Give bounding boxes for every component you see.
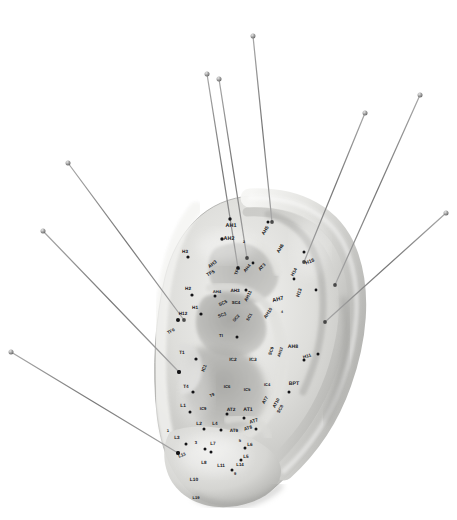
acupoint-dot [199,312,202,315]
needle-5-insertion-point [333,283,337,287]
acupoint-dot [220,429,223,432]
acupoint-dot [189,411,192,414]
ear-acupuncture-photo: AH1AH22AH5AH6H15H14AH3H3H2H1AH4AT3AH4AH3… [0,0,457,520]
acupoint-dot [220,237,223,240]
acupoint-dot [186,255,189,258]
needle-6-handle[interactable] [444,211,449,216]
acupoint-dot [191,390,194,393]
needle-7-handle[interactable] [66,161,71,166]
acupoint-dot [243,417,246,420]
needle-2-handle[interactable] [217,77,222,82]
acupoint-dot [252,262,255,265]
sheen-lobe [180,436,248,476]
ear-model-body [155,196,361,507]
needle-7-insertion-point [182,318,186,322]
acupoint-dot [194,357,197,360]
acupoint-dot [303,359,306,362]
needle-4-insertion-point [302,260,306,264]
acupoint-dot [245,289,248,292]
acupoint-dot [240,459,243,462]
acupoint-dot [315,289,318,292]
acupoint-dot [185,443,188,446]
needle-7-shaft [68,163,184,320]
needle-7[interactable] [66,161,186,322]
needle-9-handle[interactable] [9,350,14,355]
acupoint-dot [236,336,239,339]
acupoint-dot [177,370,181,374]
acupoint-dot [244,447,247,450]
sheen-tragus [180,362,212,422]
acupoint-dot [176,318,180,322]
needle-4-handle[interactable] [363,111,368,116]
needle-8-handle[interactable] [41,229,46,234]
acupoint-dot [210,451,213,454]
acupoint-dot [255,428,258,431]
acupoint-dot [267,221,270,224]
needle-5-handle[interactable] [418,93,423,98]
acupoint-dot [303,251,306,254]
acupoint-dot [317,353,320,356]
acupoint-dot [214,295,217,298]
acupoint-dot [226,413,229,416]
acupoint-dot [288,391,291,394]
acupoint-dot [190,293,193,296]
acupoint-dot [204,448,207,451]
needle-1-handle[interactable] [205,72,210,77]
needle-9-shaft [11,352,178,453]
ear-model-scene [0,0,457,520]
acupoint-dot [231,469,234,472]
acupoint-dot [237,267,240,270]
needle-2-insertion-point [245,256,249,260]
needle-6-insertion-point [323,320,327,324]
needle-5-shaft [335,95,420,285]
needle-3-handle[interactable] [251,34,256,39]
acupoint-dot [203,428,206,431]
needle-3-insertion-point [270,220,274,224]
acupoint-dot [176,451,180,455]
acupoint-dot [293,278,296,281]
acupoint-dot [228,217,231,220]
